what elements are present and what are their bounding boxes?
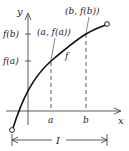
x-axis-label: x [118,115,124,126]
open-endpoint-right [105,22,110,27]
y-tick-label-fa: f(a) [2,56,19,66]
open-endpoint-left [10,128,15,133]
leader-a [51,38,55,60]
point-label-b: (b, f(b)) [65,6,100,16]
curve-label: f [64,51,70,61]
y-tick-label-fb: f(b) [2,29,20,39]
x-tick-label-a: a [48,115,53,125]
point-label-a: (a, f(a)) [37,27,71,37]
interval-label: I [55,135,61,146]
y-axis [25,13,31,125]
y-axis-label: y [16,6,23,17]
x-tick-label-b: b [83,115,89,125]
x-axis [6,108,121,114]
curve-f [13,25,106,128]
function-diagram: y x f(b) f(a) a b (a, f(a)) (b, f(b)) f … [0,0,129,151]
leader-b [86,17,89,33]
